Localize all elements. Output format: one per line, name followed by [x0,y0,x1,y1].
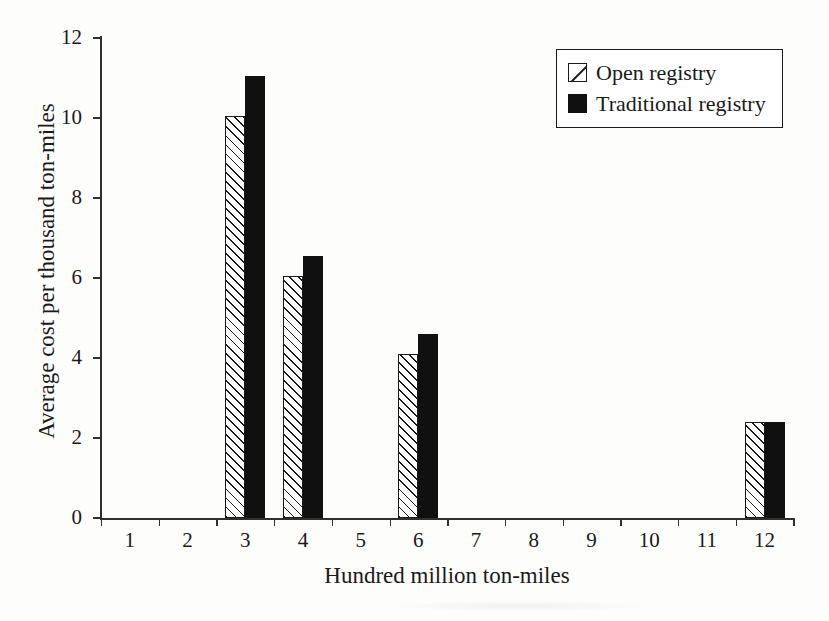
x-axis-tick [620,518,621,526]
x-axis-tick [793,518,794,526]
x-axis-tick [159,518,160,526]
x-axis-tick-label: 9 [562,528,620,552]
x-axis-tick-label: 10 [620,528,678,552]
x-axis-tick [216,518,217,526]
bar-open-registry-3 [225,116,245,518]
legend-item-traditional-registry: Traditional registry [568,88,766,119]
y-axis-tick [93,117,101,118]
y-axis-tick [93,277,101,278]
y-axis-title: Average cost per thousand ton-miles [34,36,60,506]
legend-item-label: Open registry [596,62,716,84]
x-axis-title: Hundred million ton-miles [101,563,793,589]
filled-square-icon [568,94,587,113]
x-axis-tick-label: 11 [678,528,736,552]
scan-artifact [390,601,650,611]
x-axis-tick [447,518,448,526]
y-axis-tick [93,357,101,358]
hatched-square-icon [568,63,587,82]
x-axis-tick [390,518,391,526]
x-axis-tick [101,518,102,526]
legend-item-label: Traditional registry [596,93,766,115]
bar-chart: 024681012 123456789101112 Average cost p… [0,0,829,621]
bar-traditional-registry-4 [303,256,323,518]
x-axis-tick-label: 8 [505,528,563,552]
bar-traditional-registry-6 [418,334,438,518]
x-axis-tick [678,518,679,526]
x-axis-tick [505,518,506,526]
bar-traditional-registry-12 [765,422,785,518]
y-axis-tick [93,517,101,518]
bar-open-registry-4 [283,276,303,518]
y-axis-tick [93,37,101,38]
x-axis-tick [332,518,333,526]
x-axis-tick-label: 6 [389,528,447,552]
y-axis-tick [93,437,101,438]
x-axis-tick-label: 12 [736,528,794,552]
y-axis-tick-label: 0 [48,507,82,528]
x-axis-tick-label: 1 [101,528,159,552]
x-axis-tick [736,518,737,526]
chart-legend: Open registry Traditional registry [556,49,783,128]
x-axis-tick-label: 3 [216,528,274,552]
bar-traditional-registry-3 [245,76,265,518]
bar-open-registry-12 [745,422,765,518]
y-axis-tick [93,197,101,198]
x-axis-tick [274,518,275,526]
x-axis-tick-label: 7 [447,528,505,552]
x-axis-tick-label: 5 [332,528,390,552]
x-axis-tick-label: 2 [159,528,217,552]
x-axis-tick [563,518,564,526]
bar-open-registry-6 [398,354,418,518]
x-axis-tick-label: 4 [274,528,332,552]
legend-item-open-registry: Open registry [568,57,766,88]
